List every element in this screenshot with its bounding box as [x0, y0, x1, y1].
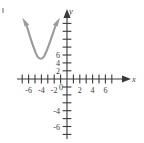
x-tick-label-neg4: -4 — [38, 86, 45, 95]
y-tick-label-neg4: -4 — [53, 107, 60, 116]
y-axis-label: y — [68, 6, 73, 16]
x-tick-label-4: 4 — [91, 86, 95, 95]
origin-label: 0 — [59, 83, 63, 92]
x-tick-label-2: 2 — [78, 86, 82, 95]
x-tick-label-neg6: -6 — [25, 86, 32, 95]
graph-figure: -6 -4 -2 2 4 6 x — [0, 0, 144, 143]
parabola-right-arrowhead — [53, 18, 60, 27]
x-axis: -6 -4 -2 2 4 6 x — [17, 74, 136, 95]
x-axis-arrowhead — [122, 76, 131, 83]
x-axis-label: x — [131, 74, 136, 84]
parabola-curve — [27, 26, 56, 59]
parabola-left-arrowhead — [22, 18, 29, 27]
x-tick-label-neg2: -2 — [51, 86, 58, 95]
y-tick-label-neg6: -6 — [53, 123, 60, 132]
coordinate-plane-svg: -6 -4 -2 2 4 6 x — [0, 0, 144, 143]
parabola-curve-group — [22, 18, 60, 59]
y-tick-label-2: 2 — [56, 67, 60, 76]
x-tick-label-6: 6 — [103, 86, 107, 95]
corner-mark — [2, 8, 4, 13]
